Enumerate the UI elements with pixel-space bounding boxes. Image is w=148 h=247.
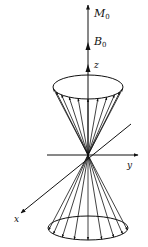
b0-label: B0	[93, 35, 107, 49]
moment-vector	[56, 92, 88, 155]
moment-vector	[88, 95, 115, 155]
moment-vector	[62, 95, 89, 155]
b0-arrowhead-icon	[86, 42, 91, 50]
moment-vector	[88, 155, 123, 234]
lower-cone-vectors	[49, 155, 128, 240]
precession-cone-diagram: M0 B0 z y x	[0, 0, 148, 247]
moment-vector	[78, 99, 88, 156]
moment-vector	[53, 155, 88, 234]
z-arrowhead-icon	[86, 64, 91, 72]
y-label: y	[126, 160, 133, 170]
x-label: x	[14, 214, 19, 224]
z-label: z	[93, 60, 99, 70]
moment-vector	[88, 99, 98, 156]
x-axis	[21, 124, 131, 213]
m0-label: M0	[93, 7, 110, 21]
moment-vector	[69, 97, 88, 155]
diagram-canvas: M0 B0 z y x	[0, 0, 148, 247]
